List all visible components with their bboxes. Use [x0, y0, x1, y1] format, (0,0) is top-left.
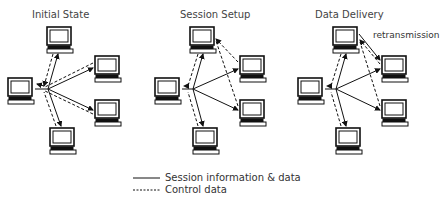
- computer-icon: [382, 56, 408, 82]
- retransmission-label: retransmission: [373, 30, 440, 40]
- panel-title-initial-state: Initial State: [32, 9, 89, 20]
- legend-dashed-label: Control data: [165, 184, 227, 195]
- computer-icon: [8, 78, 34, 104]
- computer-icon: [382, 100, 408, 126]
- computer-icon: [190, 27, 216, 53]
- computer-icon: [193, 128, 219, 154]
- computer-icon: [336, 128, 362, 154]
- panel-initial-state: [8, 27, 121, 154]
- panel-title-data-delivery: Data Delivery: [315, 9, 384, 20]
- computer-icon: [155, 78, 181, 104]
- computer-icon: [95, 100, 121, 126]
- computer-icon: [50, 128, 76, 154]
- computer-icon: [240, 100, 266, 126]
- computer-icon: [333, 27, 359, 53]
- panel-data-delivery: [298, 27, 408, 154]
- computer-icon: [95, 56, 121, 82]
- computer-icon: [47, 27, 73, 53]
- computer-icon: [298, 78, 324, 104]
- panel-title-session-setup: Session Setup: [180, 9, 250, 20]
- panel-session-setup: [155, 27, 266, 154]
- computer-icon: [240, 56, 266, 82]
- legend-solid-label: Session information & data: [165, 172, 301, 183]
